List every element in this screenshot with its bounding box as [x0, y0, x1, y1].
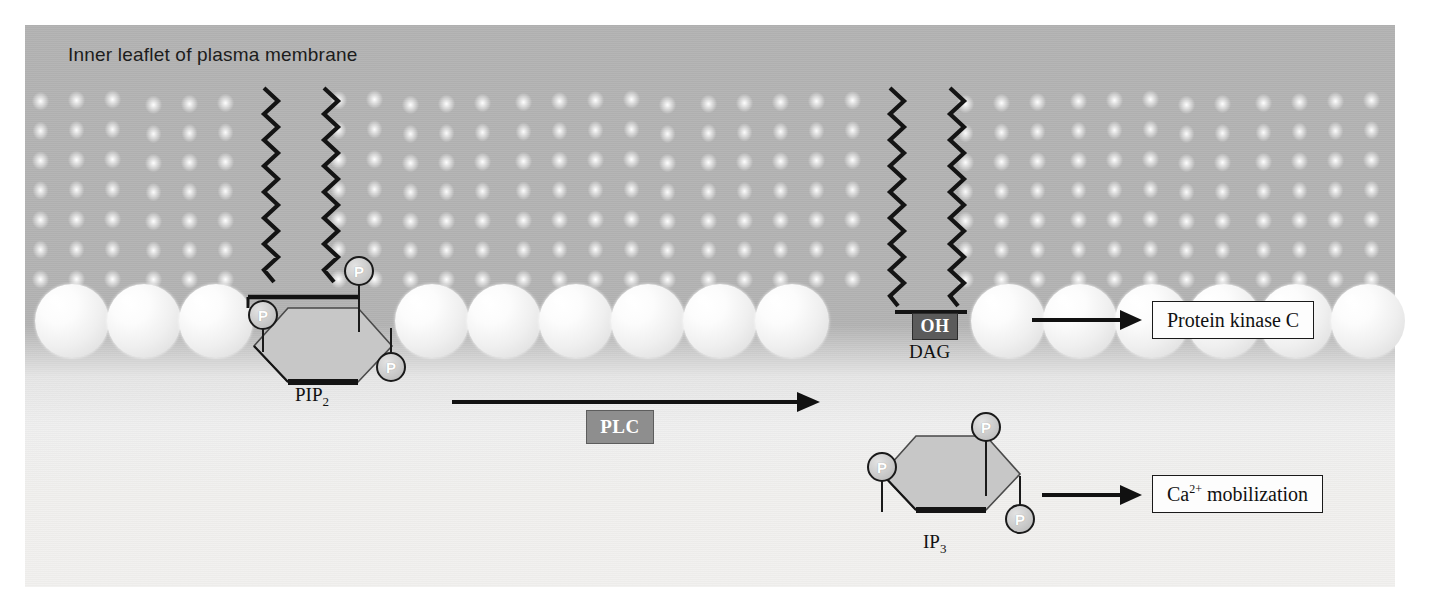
lipid-tail	[473, 82, 492, 292]
pip2-phosphate-3: P	[376, 352, 406, 382]
dag-hydroxyl-label: OH	[912, 313, 958, 340]
calcium-arrow	[1042, 482, 1142, 508]
lipid-tail	[1141, 78, 1160, 292]
lipid-head-group	[755, 284, 829, 358]
head-group-highlight	[623, 294, 640, 307]
head-group-highlight	[191, 294, 208, 307]
lipid-head-group	[35, 284, 109, 358]
lipid-tail	[550, 80, 569, 292]
lipid-tail	[1362, 79, 1381, 292]
pip2-phosphate-stem-top	[358, 282, 360, 332]
lipid-tail	[1326, 80, 1345, 292]
head-group-highlight	[479, 294, 496, 307]
ip3-phosphate-1: P	[971, 412, 1001, 442]
lipid-head-group	[107, 284, 181, 358]
lipid-tail	[514, 81, 533, 292]
ip3-phosphate-2: P	[867, 452, 897, 482]
figure-title: Inner leaflet of plasma membrane	[68, 44, 357, 66]
lipid-tail	[1069, 80, 1088, 292]
head-group-highlight	[119, 294, 136, 307]
pip2-label: PIP2	[295, 384, 329, 410]
dag-acyl-chains	[878, 86, 1008, 314]
lipid-tail	[1254, 82, 1273, 292]
lipid-tail	[103, 78, 122, 292]
head-group-highlight	[47, 294, 64, 307]
ip3-phosphate-stem-top	[985, 438, 987, 496]
pip2-phosphate-2: P	[248, 300, 278, 330]
lipid-tail	[658, 84, 677, 292]
head-group-highlight	[551, 294, 568, 307]
lipid-head-group	[467, 284, 541, 358]
lipid-tail	[699, 83, 718, 292]
head-group-highlight	[1343, 294, 1360, 307]
lipid-tail	[1290, 81, 1309, 292]
head-group-highlight	[1055, 294, 1072, 307]
lipid-tail	[180, 83, 199, 292]
head-group-highlight	[1127, 294, 1144, 307]
lipid-tail	[1105, 79, 1124, 292]
lipid-head-group	[539, 284, 613, 358]
lipid-head-group	[611, 284, 685, 358]
lipid-tail	[401, 84, 420, 292]
lipid-head-group	[1331, 284, 1405, 358]
ip3-label: IP3	[923, 531, 946, 557]
figure-canvas: Inner leaflet of plasma membrane P P P P…	[0, 0, 1444, 613]
lipid-tail	[1028, 81, 1047, 292]
lipid-tail	[843, 79, 862, 292]
calcium-mobilization-box: Ca2+ mobilization	[1152, 475, 1323, 513]
lipid-tail	[437, 83, 456, 292]
lipid-tail	[31, 80, 50, 292]
lipid-tail	[586, 79, 605, 292]
pkc-arrow	[1032, 307, 1142, 333]
lipid-tail	[622, 78, 641, 292]
lipid-head-group	[683, 284, 757, 358]
ip3-phosphate-3: P	[1005, 504, 1035, 534]
lipid-tail	[735, 82, 754, 292]
lipid-tail	[807, 80, 826, 292]
protein-kinase-c-box: Protein kinase C	[1152, 301, 1314, 339]
dag-label: DAG	[909, 341, 950, 363]
calcium-label: Ca2+ mobilization	[1167, 482, 1308, 506]
lipid-tail	[771, 81, 790, 292]
lipid-tail	[216, 82, 235, 292]
lipid-tail	[1177, 84, 1196, 292]
plc-enzyme-label: PLC	[586, 410, 654, 444]
lipid-tail	[144, 84, 163, 292]
lipid-tail	[1213, 83, 1232, 292]
pip2-phosphate-1: P	[344, 256, 374, 286]
head-group-highlight	[767, 294, 784, 307]
lipid-tail	[67, 79, 86, 292]
head-group-highlight	[695, 294, 712, 307]
